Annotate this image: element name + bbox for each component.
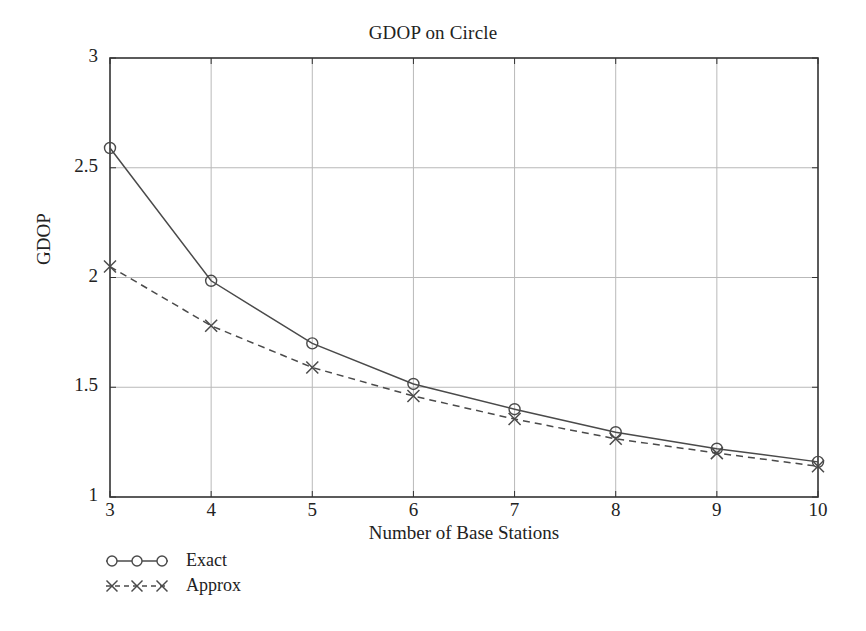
x-tick-label: 3 — [90, 499, 130, 521]
legend-label-approx: Approx — [186, 575, 241, 596]
legend-entry-approx: Approx — [100, 574, 360, 599]
x-tick-label: 9 — [697, 499, 737, 521]
y-tick-label: 1.5 — [38, 374, 98, 396]
legend-marker-x-icon — [100, 574, 174, 599]
x-tick-label: 7 — [495, 499, 535, 521]
chart-legend: Exact Approx — [100, 549, 360, 599]
legend-marker-circle — [132, 556, 142, 566]
y-tick-label: 1 — [38, 484, 98, 506]
legend-marker-circle — [107, 556, 117, 566]
x-tick-label: 8 — [596, 499, 636, 521]
legend-entry-exact: Exact — [100, 549, 360, 574]
legend-marker-circle — [157, 556, 167, 566]
y-tick-label: 2 — [38, 265, 98, 287]
x-tick-label: 6 — [393, 499, 433, 521]
x-tick-label: 5 — [292, 499, 332, 521]
chart-figure: GDOP on Circle GDOP 11.522.53 345678910 … — [0, 0, 866, 631]
series-line-exact — [110, 148, 818, 462]
y-tick-label: 2.5 — [38, 155, 98, 177]
x-tick-label: 10 — [798, 499, 838, 521]
x-tick-label: 4 — [191, 499, 231, 521]
series-line-approx — [110, 267, 818, 467]
y-tick-label: 3 — [38, 45, 98, 67]
x-axis-label: Number of Base Stations — [110, 522, 818, 544]
legend-label-exact: Exact — [186, 550, 227, 571]
legend-marker-circle-icon — [100, 549, 174, 574]
